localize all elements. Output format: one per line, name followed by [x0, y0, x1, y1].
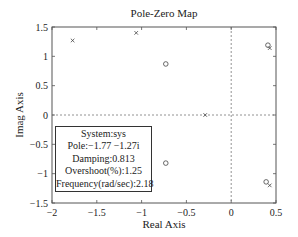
zero-marker — [264, 180, 269, 185]
datatip-overshoot: Overshoot(%):1.25 — [56, 165, 151, 177]
y-tick-label: −1 — [37, 168, 48, 179]
x-tick-label: −0.5 — [177, 207, 195, 218]
y-tick-label: −1.5 — [30, 198, 48, 209]
datatip-damping: Damping:0.813 — [56, 153, 151, 165]
x-tick-label: −1 — [136, 207, 147, 218]
x-tick-label: 0.5 — [270, 207, 283, 218]
y-tick-label: 1 — [43, 51, 48, 62]
x-tick-label: −1.5 — [88, 207, 106, 218]
pole-marker — [71, 39, 75, 43]
data-tip: System:sys Pole:−1.77 −1.27i Damping:0.8… — [55, 126, 152, 192]
datatip-pole: Pole:−1.77 −1.27i — [56, 140, 151, 152]
x-tick-label: 0 — [229, 207, 234, 218]
y-tick-label: 0 — [43, 110, 48, 121]
x-tick-label: −2 — [47, 207, 58, 218]
datatip-system: System:sys — [56, 128, 151, 140]
y-tick-label: 1.5 — [36, 22, 49, 33]
zero-marker — [163, 161, 168, 166]
y-tick-label: 0.5 — [36, 80, 49, 91]
pole-marker — [268, 184, 272, 188]
plot-area[interactable]: −2−1.5−1−0.500.51.510.50−0.5−1−1.5 — [0, 0, 298, 237]
datatip-frequency: Frequency(rad/sec):2.18 — [56, 178, 151, 190]
y-tick-label: −0.5 — [30, 139, 48, 150]
pole-marker — [203, 113, 207, 117]
zero-marker — [163, 62, 168, 67]
pole-marker — [134, 31, 138, 35]
